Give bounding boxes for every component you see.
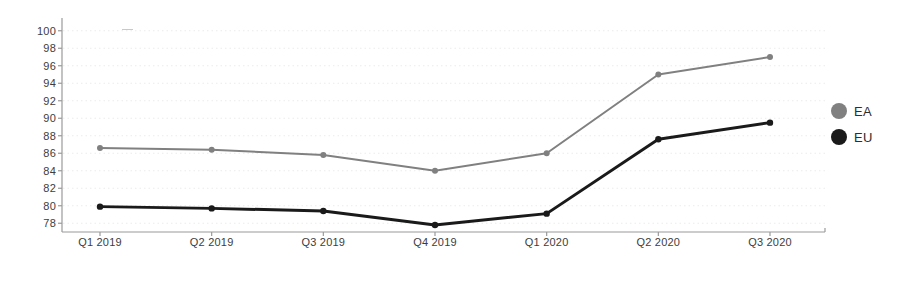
data-point-ea[interactable]: [432, 168, 438, 174]
x-axis-tick-labels: Q1 2019Q2 2019Q3 2019Q4 2019Q1 2020Q2 20…: [0, 236, 908, 260]
legend-marker-ea: [831, 103, 847, 119]
data-point-eu[interactable]: [208, 205, 214, 211]
series-line-eu: [100, 123, 770, 225]
data-point-eu[interactable]: [320, 208, 326, 214]
data-point-ea[interactable]: [97, 145, 103, 151]
chart-legend: EA EU: [831, 98, 901, 150]
data-point-ea[interactable]: [209, 147, 215, 153]
legend-item-eu[interactable]: EU: [831, 124, 901, 150]
data-point-eu[interactable]: [543, 210, 549, 216]
data-series: [97, 54, 773, 228]
x-tick-label: Q1 2020: [525, 236, 569, 248]
data-point-ea[interactable]: [320, 152, 326, 158]
data-point-eu[interactable]: [432, 222, 438, 228]
line-chart: 7880828486889092949698100 Q1 2019Q2 2019…: [0, 0, 908, 283]
data-point-ea[interactable]: [655, 72, 661, 78]
x-tick-label: Q4 2019: [413, 236, 457, 248]
legend-label-ea: EA: [854, 104, 872, 119]
legend-label-eu: EU: [854, 130, 873, 145]
x-tick-label: Q2 2020: [637, 236, 681, 248]
x-tick-label: Q3 2020: [748, 236, 792, 248]
axis-lines: [62, 18, 825, 232]
x-tick-label: Q1 2019: [78, 236, 122, 248]
data-point-ea[interactable]: [544, 150, 550, 156]
x-tick-label: Q3 2019: [302, 236, 346, 248]
x-tick-label: Q2 2019: [190, 236, 234, 248]
legend-item-ea[interactable]: EA: [831, 98, 901, 124]
data-point-eu[interactable]: [97, 203, 103, 209]
data-point-ea[interactable]: [767, 54, 773, 60]
data-point-eu[interactable]: [767, 119, 773, 125]
data-point-eu[interactable]: [655, 136, 661, 142]
series-line-ea: [100, 57, 770, 171]
legend-marker-eu: [831, 129, 847, 145]
axis-ticks: [58, 31, 825, 236]
gridlines: [63, 31, 825, 224]
